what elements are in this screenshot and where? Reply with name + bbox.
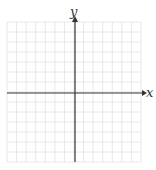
coordinate-plane: x y: [0, 0, 156, 170]
y-axis-label: y: [69, 4, 78, 19]
x-axis-label: x: [146, 85, 154, 100]
grid-lines: [7, 22, 141, 162]
